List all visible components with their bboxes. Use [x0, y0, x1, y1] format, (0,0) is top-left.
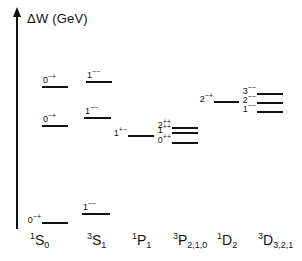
column-label-1D2: 1D2	[217, 232, 237, 248]
y-axis-label: ΔW (GeV)	[27, 11, 88, 26]
level-label: 0−+	[28, 216, 41, 225]
column-label-3D321: 3D3,2,1	[258, 232, 293, 248]
level-label: 1−−	[87, 71, 100, 80]
level-label: 0−+	[43, 76, 56, 85]
level-label: 1−−	[85, 107, 98, 116]
energy-level-3D321	[257, 111, 283, 113]
energy-level-3P210	[172, 142, 198, 144]
level-label: 1−−	[243, 105, 256, 114]
energy-level-diagram: ΔW (GeV) 1S0 3S1 1P1 3P2,1,0 1D2 3D3,2,1…	[0, 0, 302, 261]
energy-level-1S0	[42, 222, 68, 224]
column-label-1P1: 1P1	[132, 232, 151, 248]
column-label-1S0: 1S0	[30, 232, 49, 248]
energy-level-1S0	[42, 86, 68, 88]
energy-level-3S1	[86, 81, 112, 83]
energy-level-1D2	[214, 101, 239, 103]
level-label: 2−+	[200, 95, 213, 104]
energy-level-3P210	[172, 127, 198, 129]
column-label-3P210: 3P2,1,0	[173, 232, 207, 248]
energy-level-1P1	[128, 135, 154, 137]
energy-level-3P210	[172, 132, 198, 134]
energy-level-1S0	[42, 125, 68, 127]
energy-level-3S1	[82, 213, 110, 215]
level-label: 0−+	[43, 115, 56, 124]
level-label: 1+−	[114, 129, 127, 138]
energy-level-3S1	[84, 117, 111, 119]
energy-level-3D321	[257, 102, 283, 104]
level-label: 0++	[158, 136, 171, 145]
level-label: 1−−	[83, 203, 96, 212]
y-axis	[16, 16, 18, 229]
energy-level-3D321	[257, 93, 283, 95]
column-label-3S1: 3S1	[87, 232, 106, 248]
